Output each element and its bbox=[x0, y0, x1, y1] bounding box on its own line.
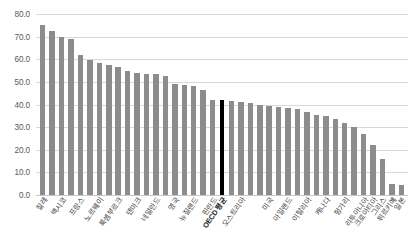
bar bbox=[144, 74, 149, 195]
bar-slot bbox=[293, 14, 302, 195]
x-axis-tick-label: 멕시코 bbox=[50, 196, 68, 217]
bar-slot bbox=[76, 14, 85, 195]
bar-slot bbox=[114, 14, 123, 195]
bar-slot bbox=[312, 14, 321, 195]
bar-slot bbox=[378, 14, 387, 195]
bar-slot bbox=[397, 14, 406, 195]
bar-slot bbox=[132, 14, 141, 195]
bar bbox=[370, 145, 375, 195]
bar bbox=[49, 31, 54, 195]
y-axis-tick-label: 30.0 bbox=[14, 123, 30, 132]
y-axis-tick-label: 60.0 bbox=[14, 55, 30, 64]
bar-slot bbox=[387, 14, 396, 195]
bar bbox=[248, 103, 253, 195]
bar-slot bbox=[170, 14, 179, 195]
y-axis-tick-label: 20.0 bbox=[14, 145, 30, 154]
bar bbox=[40, 25, 45, 195]
x-axis: 칠레멕시코프랑스노르웨이룩셈부르크덴마크네덜란드영국뉴질랜드핀란드OECD 평균… bbox=[36, 196, 408, 252]
bar bbox=[342, 123, 347, 195]
bar-slot bbox=[321, 14, 330, 195]
bar bbox=[153, 74, 158, 195]
bar-slot bbox=[161, 14, 170, 195]
x-axis-tick-label: 영국 bbox=[167, 196, 181, 212]
bar-slot bbox=[151, 14, 160, 195]
bar bbox=[257, 105, 262, 196]
bar bbox=[380, 159, 385, 195]
y-axis: 0.010.020.030.040.050.060.070.080.0 bbox=[0, 14, 33, 195]
bar bbox=[134, 73, 139, 195]
bar-slot bbox=[340, 14, 349, 195]
bar bbox=[314, 115, 319, 195]
bar-slot bbox=[104, 14, 113, 195]
bar-slot bbox=[331, 14, 340, 195]
bar bbox=[106, 65, 111, 195]
y-axis-tick-label: 40.0 bbox=[14, 100, 30, 109]
bar bbox=[229, 101, 234, 195]
bar-slot bbox=[95, 14, 104, 195]
bar-slot bbox=[180, 14, 189, 195]
bar-slot bbox=[123, 14, 132, 195]
bar-slot bbox=[359, 14, 368, 195]
bar bbox=[191, 86, 196, 195]
bar-chart: 0.010.020.030.040.050.060.070.080.0 칠레멕시… bbox=[0, 0, 411, 252]
bar-series bbox=[36, 14, 408, 195]
bar bbox=[182, 85, 187, 195]
bar bbox=[200, 90, 205, 195]
bar bbox=[78, 55, 83, 195]
bar bbox=[266, 106, 271, 195]
bar-slot bbox=[38, 14, 47, 195]
bar-slot bbox=[283, 14, 292, 195]
y-axis-tick-label: 50.0 bbox=[14, 77, 30, 86]
bar-slot bbox=[255, 14, 264, 195]
bar-slot bbox=[236, 14, 245, 195]
bar-slot bbox=[66, 14, 75, 195]
bar bbox=[125, 71, 130, 195]
bar bbox=[115, 67, 120, 195]
bar bbox=[323, 116, 328, 195]
bar bbox=[59, 37, 64, 195]
bar bbox=[163, 76, 168, 195]
bar bbox=[238, 102, 243, 195]
y-axis-tick-label: 10.0 bbox=[14, 168, 30, 177]
bar bbox=[399, 185, 404, 195]
bar bbox=[172, 84, 177, 195]
bar-slot bbox=[265, 14, 274, 195]
bar-highlighted bbox=[220, 100, 224, 195]
bar-slot bbox=[246, 14, 255, 195]
x-axis-tick-label: 미국 bbox=[261, 196, 275, 212]
x-axis-tick-label: 캐나다 bbox=[314, 196, 332, 217]
bar bbox=[276, 107, 281, 195]
bar bbox=[97, 63, 102, 195]
bar bbox=[210, 100, 215, 195]
bar-slot bbox=[368, 14, 377, 195]
bar-slot bbox=[208, 14, 217, 195]
plot-area bbox=[36, 14, 408, 195]
bar bbox=[68, 39, 73, 195]
bar-slot bbox=[349, 14, 358, 195]
bar-slot bbox=[274, 14, 283, 195]
bar-slot bbox=[189, 14, 198, 195]
bar bbox=[389, 184, 394, 195]
bar bbox=[285, 108, 290, 195]
bar bbox=[295, 109, 300, 195]
bar-slot bbox=[142, 14, 151, 195]
y-axis-tick-label: 0.0 bbox=[19, 191, 30, 200]
bar bbox=[361, 134, 366, 195]
y-axis-tick-label: 70.0 bbox=[14, 32, 30, 41]
bar-slot bbox=[47, 14, 56, 195]
bar bbox=[333, 119, 338, 195]
bar bbox=[351, 127, 356, 195]
bar bbox=[87, 60, 92, 195]
bar-slot bbox=[302, 14, 311, 195]
bar-slot bbox=[217, 14, 226, 195]
y-axis-tick-label: 80.0 bbox=[14, 10, 30, 19]
bar-slot bbox=[227, 14, 236, 195]
bar bbox=[304, 112, 309, 195]
x-axis-tick-label: 칠레 bbox=[35, 196, 49, 212]
bar-slot bbox=[57, 14, 66, 195]
bar-slot bbox=[198, 14, 207, 195]
bar-slot bbox=[85, 14, 94, 195]
